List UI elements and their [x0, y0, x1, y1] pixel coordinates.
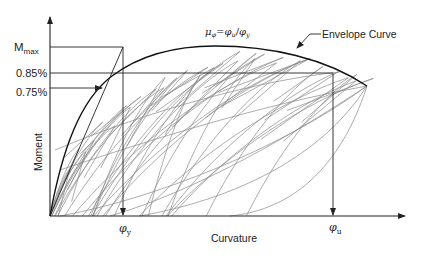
hysteresis-loop	[230, 86, 367, 216]
hysteresis-loops	[50, 52, 373, 217]
phi-y-label: φy	[119, 222, 132, 237]
ductility-equation: μφ=φu/φy	[205, 26, 250, 39]
hysteresis-loop	[88, 64, 223, 216]
annotation-leader	[297, 34, 321, 48]
hysteresis-loop	[94, 58, 310, 216]
hysteresis-loop	[55, 72, 340, 150]
hysteresis-loop	[55, 88, 164, 216]
y-axis-label: Moment	[32, 133, 44, 171]
x-axis-label: Curvature	[211, 232, 257, 244]
hysteresis-loop	[92, 52, 240, 217]
envelope-curve-label: Envelope Curve	[322, 28, 397, 40]
hysteresis-loop	[93, 70, 188, 216]
p075-label: 0.75%	[16, 86, 47, 98]
hysteresis-loop	[167, 78, 373, 216]
m-max-label: Mmax	[14, 41, 39, 56]
moment-curvature-diagram: Mmax 0.85% 0.75% Moment φy φu Curvature …	[0, 0, 421, 259]
secant-stiffness-line	[50, 47, 123, 216]
p085-label: 0.85%	[16, 67, 47, 79]
phi-u-label: φu	[329, 221, 342, 236]
